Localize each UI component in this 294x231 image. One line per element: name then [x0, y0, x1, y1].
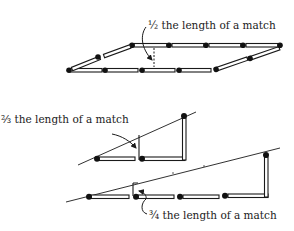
match — [129, 42, 167, 48]
match — [103, 45, 131, 58]
match — [133, 194, 174, 200]
match — [181, 113, 187, 160]
label-three-quarters: ¾ the length of a match — [149, 210, 277, 221]
parallelogram-diagram — [66, 27, 283, 73]
match — [212, 56, 248, 73]
match — [177, 194, 219, 200]
match — [139, 67, 175, 73]
match — [86, 194, 129, 200]
label-half: ½ the length of a match — [148, 20, 276, 31]
match — [222, 193, 268, 199]
label-two-thirds: ⅔ the length of a match — [1, 114, 129, 125]
match — [240, 42, 283, 48]
match — [246, 46, 280, 62]
match — [176, 67, 211, 73]
match — [263, 152, 269, 197]
matchstick-figure: ½ the length of a match ⅔ the length of … — [0, 0, 294, 231]
match — [203, 42, 241, 48]
match — [166, 42, 204, 48]
match — [102, 67, 138, 73]
arrow-icon — [139, 191, 147, 214]
match — [139, 156, 185, 162]
match — [94, 156, 135, 162]
